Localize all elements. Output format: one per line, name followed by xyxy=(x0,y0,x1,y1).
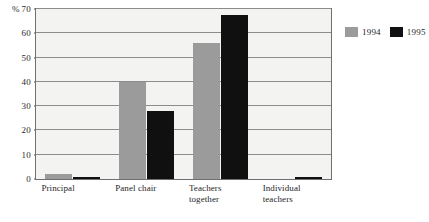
y-tick-label: 10 xyxy=(22,150,31,159)
y-tick-label: 50 xyxy=(22,53,31,62)
x-tick-label-line: Principal xyxy=(41,183,121,194)
x-axis: PrincipalPanel chairTeacherstogetherIndi… xyxy=(35,183,332,219)
bars-layer xyxy=(36,9,331,179)
x-tick-label-line: Panel chair xyxy=(115,183,195,194)
legend-item-1994[interactable]: 1994 xyxy=(345,27,381,37)
bar-1995-principal xyxy=(73,177,100,179)
x-tick-label-line: Individual xyxy=(263,183,343,194)
y-tick-label: %70 xyxy=(12,5,31,14)
legend-swatch-icon xyxy=(390,27,403,37)
percent-symbol: % xyxy=(12,4,20,14)
x-tick-label-line: Teachers xyxy=(189,183,269,194)
bar-1995-teachers-together xyxy=(221,15,248,179)
legend-swatch-icon xyxy=(345,27,358,37)
legend-label: 1994 xyxy=(362,28,381,37)
bar-chart: 0102030405060%70 PrincipalPanel chairTea… xyxy=(0,0,429,222)
x-tick-label-line: together xyxy=(189,194,269,205)
y-axis: 0102030405060%70 xyxy=(0,8,34,180)
y-tick-label: 0 xyxy=(26,175,31,184)
x-tick-label: Panel chair xyxy=(115,183,195,194)
y-tick-label: 60 xyxy=(22,29,31,38)
y-tick-label: 40 xyxy=(22,77,31,86)
bar-1995-individual-teachers xyxy=(295,177,322,179)
bar-1995-panel-chair xyxy=(147,111,174,179)
legend-item-1995[interactable]: 1995 xyxy=(390,27,426,37)
bar-1994-principal xyxy=(45,174,72,179)
legend-label: 1995 xyxy=(407,28,426,37)
y-tick-label: 30 xyxy=(22,102,31,111)
x-tick-label: Teacherstogether xyxy=(189,183,269,205)
x-tick-label: Individualteachers xyxy=(263,183,343,205)
y-tick-label: 20 xyxy=(22,126,31,135)
x-tick-label: Principal xyxy=(41,183,121,194)
x-tick-label-line: teachers xyxy=(263,194,343,205)
plot-area xyxy=(35,8,332,180)
legend: 19941995 xyxy=(345,27,426,37)
bar-1994-teachers-together xyxy=(193,43,220,179)
bar-1994-panel-chair xyxy=(119,82,146,179)
